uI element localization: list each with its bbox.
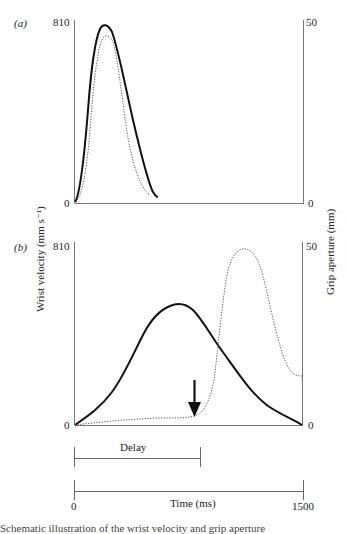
panel-a-axes bbox=[75, 20, 305, 204]
panel-b-axes bbox=[75, 242, 304, 426]
panel-a-right-max: 50 bbox=[306, 16, 317, 28]
panel-b-right-zero: 0 bbox=[308, 419, 314, 431]
panel-b-aperture-curve bbox=[75, 249, 302, 425]
panel-b-left-max: 810 bbox=[53, 240, 70, 252]
time-axis-end: 1500 bbox=[292, 500, 314, 512]
panel-a-velocity-curve bbox=[75, 25, 158, 202]
time-axis-start: 0 bbox=[71, 500, 77, 512]
delay-label: Delay bbox=[120, 441, 146, 453]
figure-caption-partial: Schematic illustration of the wrist velo… bbox=[0, 522, 349, 534]
panel-b-right-max: 50 bbox=[306, 240, 317, 252]
panel-a-left-zero: 0 bbox=[64, 197, 70, 209]
panel-a-left-max: 810 bbox=[53, 16, 70, 28]
right-axis-label: Grip aperture (mm) bbox=[324, 209, 336, 295]
panel-b-tag: (b) bbox=[14, 241, 27, 253]
time-axis-label: Time (ms) bbox=[170, 497, 216, 509]
grip-onset-arrow-icon bbox=[188, 380, 201, 417]
panel-b-left-zero: 0 bbox=[64, 419, 70, 431]
left-axis-label: Wrist velocity (mm s⁻¹) bbox=[34, 206, 47, 312]
panel-b-velocity-curve bbox=[75, 304, 302, 425]
panel-a-right-zero: 0 bbox=[308, 197, 314, 209]
panel-a-tag: (a) bbox=[14, 17, 27, 29]
